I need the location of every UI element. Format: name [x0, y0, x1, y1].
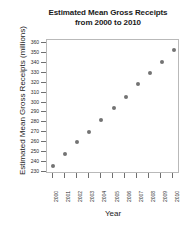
chart-figure: Estimated Mean Gross Receipts from 2000 … [0, 0, 192, 232]
x-axis-tick [148, 173, 149, 178]
chart-title-line-2: from 2000 to 2010 [28, 18, 188, 28]
x-axis-title: Year [48, 209, 178, 218]
y-axis-tick-label: 340 [0, 60, 39, 65]
y-axis-tick-label: 290 [0, 109, 39, 114]
data-point [87, 130, 91, 134]
x-axis-tick [136, 173, 137, 178]
data-point [99, 118, 103, 122]
x-axis-tick-label: 2003 [90, 191, 95, 202]
chart-title: Estimated Mean Gross Receipts from 2000 … [28, 8, 188, 28]
x-axis-tick [172, 173, 173, 178]
x-axis-tick [112, 173, 113, 178]
y-axis-tick-label: 300 [0, 100, 39, 105]
x-axis-tick-label: 2002 [78, 191, 83, 202]
x-axis-tick-label: 2010 [175, 191, 180, 202]
data-point [136, 82, 140, 86]
x-axis-tick-label: 2000 [54, 191, 59, 202]
x-axis-tick [88, 173, 89, 178]
x-axis-tick-label: 2005 [115, 191, 120, 202]
data-point [75, 140, 79, 144]
x-axis-tick-label: 2001 [66, 191, 71, 202]
y-axis-tick-label: 350 [0, 50, 39, 55]
data-point [148, 71, 152, 75]
y-axis-tick-label: 240 [0, 159, 39, 164]
x-axis-tick [64, 173, 65, 178]
y-axis-tick-label: 330 [0, 70, 39, 75]
x-axis-tick-label: 2009 [163, 191, 168, 202]
y-axis-tick-label: 360 [0, 40, 39, 45]
data-point [160, 60, 164, 64]
x-axis-tick-label: 2008 [151, 191, 156, 202]
y-axis-tick-label: 310 [0, 90, 39, 95]
data-point [63, 152, 67, 156]
x-axis-tick [160, 173, 161, 178]
x-axis-tick-label: 2006 [127, 191, 132, 202]
x-axis-tick [100, 173, 101, 178]
x-axis-tick [124, 173, 125, 178]
data-point [51, 164, 55, 168]
x-axis-tick-label: 2007 [139, 191, 144, 202]
data-point [172, 48, 176, 52]
y-axis-tick-label: 320 [0, 80, 39, 85]
x-axis-tick [76, 173, 77, 178]
chart-title-line-1: Estimated Mean Gross Receipts [49, 8, 168, 17]
y-axis-tick-label: 250 [0, 149, 39, 154]
y-axis-tick-label: 270 [0, 129, 39, 134]
data-point [112, 106, 116, 110]
plot-area [46, 39, 179, 173]
y-axis-tick-label: 230 [0, 169, 39, 174]
y-axis-tick-label: 280 [0, 119, 39, 124]
y-axis-tick-label: 260 [0, 139, 39, 144]
x-axis-tick [52, 173, 53, 178]
data-point [124, 95, 128, 99]
x-axis-tick-label: 2004 [102, 191, 107, 202]
